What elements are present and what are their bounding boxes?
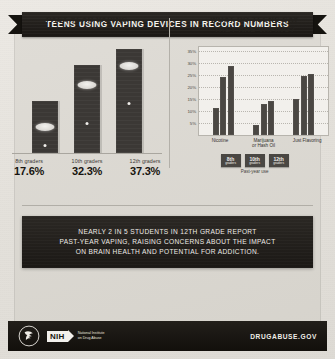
- y-axis-tick: 30%: [187, 61, 196, 66]
- y-axis-tick: 20%: [187, 84, 196, 89]
- y-axis-tick: 35%: [187, 49, 196, 54]
- nih-badge-text: NIH: [47, 331, 68, 342]
- legend-grade-sub: graders: [225, 162, 236, 165]
- percent-value: 32.3%: [66, 165, 108, 177]
- grouped-bar: [293, 99, 299, 135]
- label-group-8th: 8th graders 17.6%: [8, 158, 50, 177]
- device-light-icon: [44, 144, 47, 147]
- grouped-bar-plot: 5%10%15%20%25%30%35%: [198, 46, 329, 136]
- grouped-bar: [268, 101, 274, 134]
- footer-bar: NIH National Institute on Drug Abuse DRU…: [8, 321, 327, 351]
- legend-item-12th: 12th graders: [269, 154, 289, 167]
- legend-item-10th: 10th graders: [245, 154, 265, 167]
- website-url: DRUGABUSE.GOV: [250, 333, 317, 340]
- what-teens-vape-chart: WHAT DO TEENS SAY THEY ARE VAPING? 5%10%…: [174, 6, 335, 196]
- grade-label: 10th graders: [66, 158, 108, 164]
- bar-12th: [116, 49, 142, 153]
- charts-region: PAST-YEAR VAPING 8th graders: [0, 6, 335, 196]
- grade-label: 8th graders: [8, 158, 50, 164]
- x-label-marijuana: Marijuanaor Hash Oil: [243, 138, 285, 150]
- nih-arrow-icon: [68, 330, 74, 342]
- bar-group: [293, 74, 314, 135]
- callout-line-3: ON BRAIN HEALTH AND POTENTIAL FOR ADDICT…: [76, 247, 260, 257]
- y-axis-tick: 5%: [190, 120, 196, 125]
- callout-box: NEARLY 2 IN 5 STUDENTS IN 12TH GRADE REP…: [22, 216, 313, 268]
- y-axis-tick: 15%: [187, 96, 196, 101]
- vapor-cloud-icon: [120, 62, 139, 70]
- legend-caption: Past-year use: [174, 169, 335, 174]
- x-label-flavoring: Just Flavoring: [286, 138, 328, 150]
- nih-subtitle: National Institute on Drug Abuse: [78, 331, 105, 341]
- vapor-cloud-icon: [36, 123, 55, 131]
- callout-rule: [22, 205, 313, 206]
- grouped-bar: [213, 108, 219, 134]
- callout-line-2: PAST-YEAR VAPING, RAISING CONCERNS ABOUT…: [59, 237, 275, 247]
- left-chart-labels: 8th graders 17.6% 10th graders 32.3% 12t…: [0, 158, 174, 177]
- grouped-bar: [228, 66, 234, 135]
- grouped-bar: [301, 76, 307, 134]
- device-light-icon: [86, 122, 89, 125]
- vapor-cloud-icon: [78, 81, 97, 89]
- grouped-bar: [253, 125, 259, 135]
- hhs-eagle-icon: [18, 325, 40, 347]
- x-label-nicotine: Nicotine: [199, 138, 241, 150]
- y-axis-tick: 25%: [187, 73, 196, 78]
- grade-label: 12th graders: [124, 158, 166, 164]
- legend-item-8th: 8th graders: [221, 154, 241, 167]
- left-axis-line: [12, 153, 162, 154]
- percent-value: 37.3%: [124, 165, 166, 177]
- infographic-page: TEENS USING VAPING DEVICES IN RECORD NUM…: [0, 0, 335, 359]
- grouped-bar: [261, 104, 267, 135]
- legend-grade-sub: graders: [249, 162, 260, 165]
- nih-subtitle-line2: on Drug Abuse: [78, 336, 102, 340]
- nih-subtitle-line1: National Institute: [78, 331, 105, 335]
- callout-line-1: NEARLY 2 IN 5 STUDENTS IN 12TH GRADE REP…: [78, 227, 256, 237]
- right-chart-title-line1: WHAT DO TEENS SAY: [210, 15, 299, 24]
- x-axis-labels: Nicotine Marijuanaor Hash Oil Just Flavo…: [198, 138, 329, 150]
- right-chart-title: WHAT DO TEENS SAY THEY ARE VAPING?: [174, 15, 335, 36]
- right-chart-title-line2: THEY ARE VAPING?: [214, 25, 295, 34]
- bar-groups: [199, 47, 328, 135]
- left-bars: [0, 41, 174, 153]
- bar-group: [253, 101, 274, 134]
- chart-legend: 8th graders 10th graders 12th graders: [174, 154, 335, 167]
- legend-grade-sub: graders: [273, 162, 284, 165]
- label-group-10th: 10th graders 32.3%: [66, 158, 108, 177]
- bar-group: [213, 66, 234, 135]
- label-group-12th: 12th graders 37.3%: [124, 158, 166, 177]
- device-light-icon: [128, 102, 131, 105]
- nih-logo: NIH National Institute on Drug Abuse: [47, 330, 104, 342]
- y-axis-tick: 10%: [187, 108, 196, 113]
- bar-10th: [74, 65, 100, 153]
- past-year-vaping-chart: PAST-YEAR VAPING 8th graders: [0, 6, 174, 196]
- percent-value: 17.6%: [8, 165, 50, 177]
- bar-8th: [32, 101, 58, 153]
- grouped-bar: [308, 74, 314, 135]
- left-chart-title: PAST-YEAR VAPING: [0, 15, 174, 25]
- grouped-bar: [220, 77, 226, 134]
